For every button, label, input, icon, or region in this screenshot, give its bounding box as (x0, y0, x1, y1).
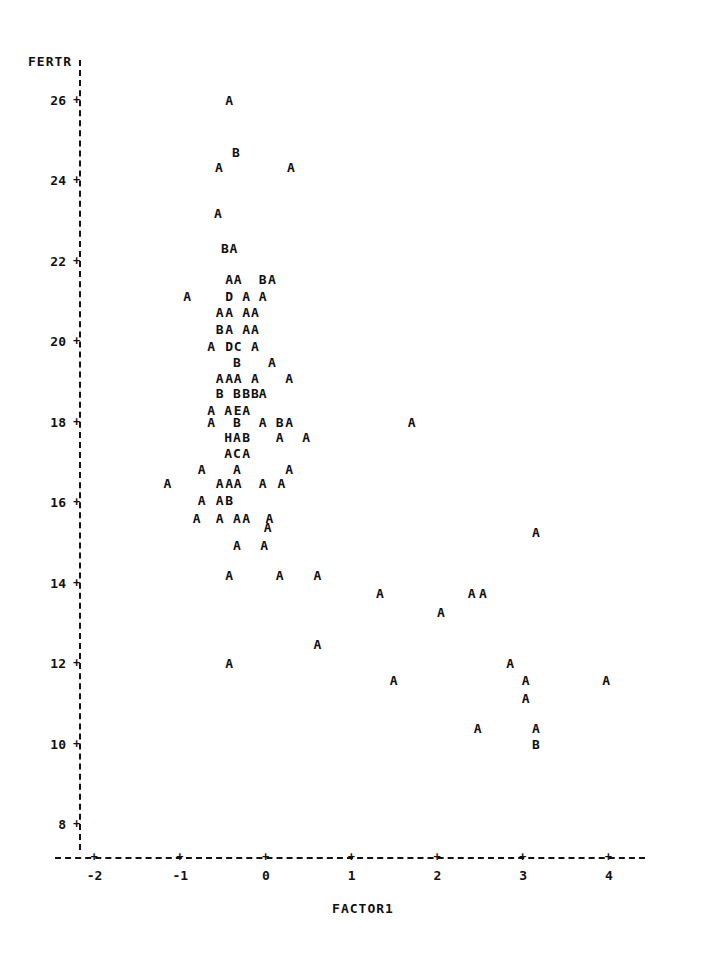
data-point: B (242, 431, 250, 444)
x-tick-mark: + (348, 851, 355, 863)
data-point: A (474, 722, 482, 735)
data-point: B (233, 355, 241, 368)
x-axis-title: FACTOR1 (0, 901, 726, 916)
x-tick-label: 2 (417, 869, 457, 882)
data-point: A (285, 462, 293, 475)
y-tick-label: 24 (26, 174, 66, 187)
data-point: A (225, 477, 233, 490)
data-point: A (268, 355, 276, 368)
data-point: A (224, 446, 232, 459)
data-point: B (242, 387, 250, 400)
y-tick-label: 8 (26, 818, 66, 831)
data-point: A (242, 306, 250, 319)
y-tick-label: 14 (26, 577, 66, 590)
data-point: A (225, 322, 233, 335)
data-point: A (216, 477, 224, 490)
data-point: A (376, 586, 384, 599)
y-tick-label: 20 (26, 335, 66, 348)
y-tick-mark: + (73, 416, 80, 428)
x-tick-label: 1 (332, 869, 372, 882)
y-tick-label: 10 (26, 738, 66, 751)
data-point: H (224, 431, 232, 444)
data-point: A (285, 415, 293, 428)
data-point: A (313, 638, 321, 651)
data-point: A (437, 606, 445, 619)
data-point: A (522, 673, 530, 686)
data-point: A (225, 306, 233, 319)
x-tick-mark: + (262, 851, 269, 863)
data-point: A (479, 586, 487, 599)
data-point: B (276, 415, 284, 428)
data-point: A (251, 306, 259, 319)
data-point: A (225, 657, 233, 670)
data-point: A (207, 339, 215, 352)
data-point: B (216, 322, 224, 335)
y-tick-mark: + (73, 577, 80, 589)
scatter-plot-figure: FERTR +26+24+22+20+18+16+14+12+10+8 +-2+… (0, 0, 726, 964)
data-point: B (233, 387, 241, 400)
data-point: A (198, 493, 206, 506)
data-point: A (276, 431, 284, 444)
data-point: B (251, 387, 259, 400)
data-point: A (225, 568, 233, 581)
y-tick-label: 18 (26, 416, 66, 429)
data-point: A (207, 415, 215, 428)
data-point: A (242, 289, 250, 302)
data-point: A (183, 289, 191, 302)
y-tick-mark: + (73, 255, 80, 267)
y-tick-mark: + (73, 174, 80, 186)
data-point: A (302, 431, 310, 444)
data-point: A (251, 322, 259, 335)
y-tick-mark: + (73, 335, 80, 347)
data-point: A (313, 568, 321, 581)
data-point: A (408, 415, 416, 428)
data-point: A (225, 273, 233, 286)
data-point: A (242, 511, 250, 524)
data-point: A (390, 673, 398, 686)
x-tick-label: -1 (160, 869, 200, 882)
data-point: A (278, 477, 286, 490)
data-point: A (193, 511, 201, 524)
data-point: B (225, 493, 233, 506)
data-point: A (276, 568, 284, 581)
data-point: A (259, 387, 267, 400)
y-tick-label: 26 (26, 94, 66, 107)
data-point: C (233, 446, 241, 459)
data-point: A (164, 477, 172, 490)
x-tick-mark: + (433, 851, 440, 863)
data-point: A (251, 371, 259, 384)
data-point: A (506, 657, 514, 670)
data-point: A (259, 477, 267, 490)
x-tick-mark: + (519, 851, 526, 863)
data-point: A (259, 289, 267, 302)
x-tick-mark: + (91, 851, 98, 863)
data-point: A (251, 339, 259, 352)
data-point: A (214, 207, 222, 220)
y-tick-mark: + (73, 657, 80, 669)
y-tick-label: 12 (26, 657, 66, 670)
data-point: A (216, 511, 224, 524)
data-point: B (232, 145, 240, 158)
data-point: B (233, 415, 241, 428)
y-tick-label: 22 (26, 255, 66, 268)
data-point: A (242, 322, 250, 335)
data-point: A (264, 520, 272, 533)
data-point: A (230, 242, 238, 255)
x-tick-label: -2 (75, 869, 115, 882)
y-tick-mark: + (73, 738, 80, 750)
x-tick-mark: + (605, 851, 612, 863)
data-point: A (216, 493, 224, 506)
y-tick-mark: + (73, 496, 80, 508)
data-point: A (234, 477, 242, 490)
data-point: C (234, 339, 242, 352)
y-tick-mark: + (73, 94, 80, 106)
x-tick-label: 0 (246, 869, 286, 882)
data-point: A (216, 371, 224, 384)
data-point: A (233, 431, 241, 444)
data-point: A (287, 160, 295, 173)
data-point: A (468, 586, 476, 599)
data-point: A (224, 403, 232, 416)
data-point: A (602, 673, 610, 686)
data-point: A (532, 722, 540, 735)
data-point: A (522, 692, 530, 705)
